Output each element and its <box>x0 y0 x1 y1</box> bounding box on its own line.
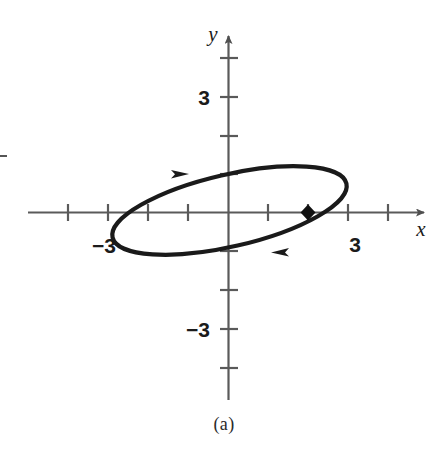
x-axis-label: x <box>415 217 426 241</box>
figure-caption: (a) <box>0 414 448 435</box>
upper-branch-arrow-icon <box>171 170 189 179</box>
y-tick-label-pos3: 3 <box>198 86 210 109</box>
ellipse-plot: y x −3 3 3 −3 <box>0 0 448 476</box>
x-tick-label-pos3: 3 <box>349 233 361 256</box>
axis-lines <box>28 36 424 400</box>
lower-branch-arrow-icon <box>271 248 289 257</box>
figure-container: y x −3 3 3 −3 (a) <box>0 0 448 476</box>
y-tick-label-neg3: −3 <box>186 318 210 341</box>
y-axis-label: y <box>206 22 218 46</box>
